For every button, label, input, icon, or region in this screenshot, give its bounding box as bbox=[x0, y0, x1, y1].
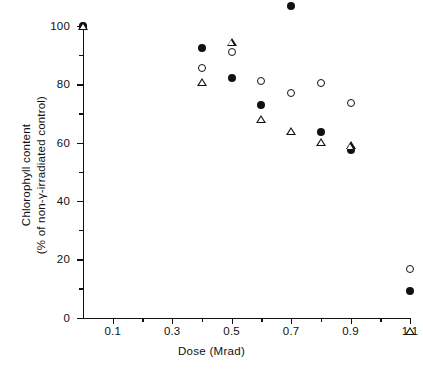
data-point-filled-circle bbox=[287, 2, 295, 10]
y-axis-title: Chlorophyll content (% of non-γ-irradiat… bbox=[19, 35, 49, 315]
x-axis-title: Dose (Mrad) bbox=[0, 345, 423, 357]
y-tick-minor bbox=[79, 113, 83, 114]
chlorophyll-dose-scatter-chart: 020406080100 0.10.30.50.70.91.1 Chloroph… bbox=[0, 0, 423, 370]
y-tick-minor bbox=[79, 288, 83, 289]
data-point-open-circle bbox=[228, 48, 236, 56]
x-tick-minor bbox=[142, 318, 143, 322]
x-tick-minor bbox=[321, 318, 322, 322]
y-tick-major bbox=[77, 318, 83, 319]
x-tick-major bbox=[410, 318, 411, 324]
data-point-open-triangle bbox=[316, 138, 326, 146]
y-tick-minor bbox=[79, 172, 83, 173]
data-point-open-circle bbox=[257, 77, 265, 85]
y-axis-line bbox=[83, 26, 84, 318]
data-point-open-triangle bbox=[78, 22, 88, 30]
y-axis-title-line1: Chlorophyll content bbox=[19, 35, 34, 315]
data-point-filled-circle bbox=[228, 74, 236, 82]
x-tick-major bbox=[172, 318, 173, 324]
x-tick-label: 0.9 bbox=[329, 325, 373, 337]
data-point-open-triangle bbox=[227, 38, 237, 46]
y-tick-label: 100 bbox=[30, 20, 70, 32]
data-points-layer bbox=[0, 0, 423, 64]
y-tick-major bbox=[77, 259, 83, 260]
y-axis-title-line2: (% of non-γ-irradiated control) bbox=[34, 35, 49, 315]
data-point-filled-circle bbox=[406, 287, 414, 295]
y-tick-major bbox=[77, 201, 83, 202]
x-tick-minor bbox=[380, 318, 381, 322]
data-point-filled-circle bbox=[257, 101, 265, 109]
y-tick-minor bbox=[79, 55, 83, 56]
data-point-open-triangle bbox=[405, 327, 415, 335]
x-axis-line bbox=[83, 318, 410, 319]
y-tick-major bbox=[77, 84, 83, 85]
y-tick-major bbox=[77, 143, 83, 144]
data-point-open-triangle bbox=[346, 141, 356, 149]
data-point-filled-circle bbox=[317, 128, 325, 136]
x-tick-label: 0.1 bbox=[91, 325, 135, 337]
data-point-open-circle bbox=[347, 99, 355, 107]
x-tick-major bbox=[113, 318, 114, 324]
x-tick-minor bbox=[202, 318, 203, 322]
x-tick-label: 0.7 bbox=[269, 325, 313, 337]
data-point-open-triangle bbox=[256, 115, 266, 123]
x-tick-minor bbox=[261, 318, 262, 322]
x-tick-label: 0.5 bbox=[210, 325, 254, 337]
data-point-open-triangle bbox=[286, 127, 296, 135]
x-tick-major bbox=[351, 318, 352, 324]
x-tick-major bbox=[232, 318, 233, 324]
data-point-open-circle bbox=[198, 64, 206, 72]
x-tick-label: 0.3 bbox=[150, 325, 194, 337]
data-point-open-circle bbox=[317, 79, 325, 87]
data-point-open-circle bbox=[406, 265, 414, 273]
x-tick-major bbox=[291, 318, 292, 324]
data-point-open-circle bbox=[287, 89, 295, 97]
data-point-filled-circle bbox=[198, 44, 206, 52]
y-tick-minor bbox=[79, 230, 83, 231]
data-point-open-triangle bbox=[197, 78, 207, 86]
